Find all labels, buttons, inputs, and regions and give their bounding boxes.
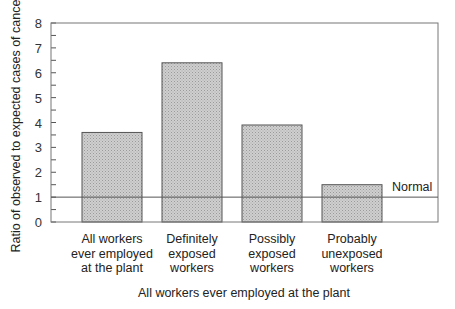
- y-tick-label: 7: [35, 41, 42, 56]
- y-tick-label: 3: [35, 140, 42, 155]
- y-tick-label: 8: [35, 16, 42, 31]
- bar-chart: 012345678 Normal All workersever employe…: [0, 0, 455, 309]
- bar: [322, 185, 382, 222]
- category-labels: All workersever employedat the plantDefi…: [71, 232, 383, 275]
- bars: [82, 63, 382, 222]
- y-tick-label: 2: [35, 165, 42, 180]
- y-axis-title: Ratio of observed to expected cases of c…: [9, 0, 23, 253]
- category-label: Possibly: [249, 232, 296, 246]
- category-label: workers: [249, 261, 294, 275]
- normal-label: Normal: [392, 180, 432, 194]
- y-tick-label: 5: [35, 91, 42, 106]
- category-label: exposed: [248, 247, 295, 261]
- category-label: exposed: [168, 247, 215, 261]
- category-label: ever employed: [71, 247, 153, 261]
- bar: [242, 125, 302, 222]
- category-label: Definitely: [166, 232, 218, 246]
- bar: [162, 63, 222, 222]
- category-label: Probably: [327, 232, 377, 246]
- bar: [82, 132, 142, 222]
- category-label: workers: [169, 261, 214, 275]
- y-tick-label: 1: [35, 190, 42, 205]
- category-label: workers: [329, 261, 374, 275]
- y-tick-label: 4: [35, 116, 42, 131]
- y-tick-label: 6: [35, 66, 42, 81]
- category-label: unexposed: [321, 247, 382, 261]
- y-axis-ticks: 012345678: [35, 16, 56, 230]
- y-tick-label: 0: [35, 215, 42, 230]
- category-label: All workers: [81, 232, 142, 246]
- category-label: at the plant: [81, 261, 143, 275]
- x-axis-title: All workers ever employed at the plant: [138, 286, 350, 300]
